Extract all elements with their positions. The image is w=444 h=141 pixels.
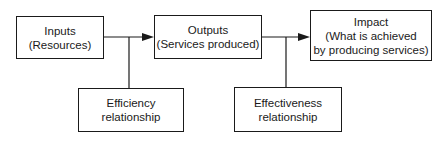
node-inputs-title: Inputs — [44, 24, 75, 38]
node-inputs-subtitle: (Resources) — [29, 38, 92, 52]
node-effectiveness: Effectiveness relationship — [234, 87, 342, 132]
node-impact: Impact (What is achieved by producing se… — [310, 10, 432, 61]
node-inputs: Inputs (Resources) — [16, 16, 104, 59]
node-efficiency-line-2: relationship — [102, 110, 161, 124]
node-effectiveness-line-1: Effectiveness — [254, 96, 322, 110]
node-outputs: Outputs (Services produced) — [154, 15, 262, 59]
node-impact-title: Impact — [354, 15, 389, 29]
node-effectiveness-line-2: relationship — [259, 110, 318, 124]
node-impact-subtitle-1: (What is achieved — [325, 29, 416, 43]
node-impact-subtitle-2: by producing services) — [313, 43, 428, 57]
node-efficiency-line-1: Efficiency — [106, 96, 155, 110]
node-outputs-subtitle: (Services produced) — [157, 37, 260, 51]
arrowhead-icon — [142, 33, 154, 41]
node-efficiency: Efficiency relationship — [78, 88, 184, 132]
arrowhead-icon — [298, 33, 310, 41]
node-outputs-title: Outputs — [188, 23, 228, 37]
